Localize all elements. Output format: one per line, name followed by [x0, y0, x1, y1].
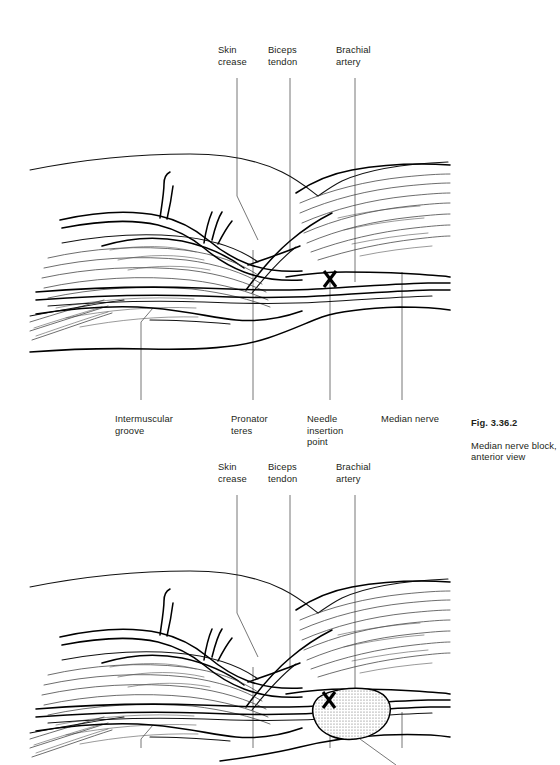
figure-1-biceps-striations	[300, 174, 450, 260]
figure-1-brachial-artery-median-nerve	[36, 272, 450, 306]
label-brachial-artery-fig1: Brachial artery	[336, 44, 371, 67]
label-skin-crease-fig1: Skin crease	[218, 44, 247, 67]
figure-2-superficial-veins	[60, 589, 302, 697]
label-biceps-tendon-fig1: Biceps tendon	[268, 44, 297, 67]
figure-2-forearm-contour	[36, 724, 302, 741]
figure-2-pronator-teres	[42, 652, 270, 744]
figure-2-deep-fibres	[30, 717, 124, 757]
figure-1-skin-contours	[30, 154, 450, 352]
figure-1-pronator-teres	[42, 235, 270, 327]
figure-2-biceps-striations	[300, 591, 450, 677]
figure-1-leader-lines	[141, 78, 402, 400]
label-biceps-tendon-fig2: Biceps tendon	[268, 461, 297, 484]
figure-1-deep-fibres	[30, 300, 124, 340]
figure-2-depot-leader	[360, 739, 396, 765]
figure-1-forearm-contour	[36, 307, 302, 324]
figure-1-superficial-veins	[60, 172, 302, 280]
label-skin-crease-fig2: Skin crease	[218, 461, 247, 484]
figure-2-skin-contours	[30, 571, 450, 761]
label-brachial-artery-fig2: Brachial artery	[336, 461, 371, 484]
